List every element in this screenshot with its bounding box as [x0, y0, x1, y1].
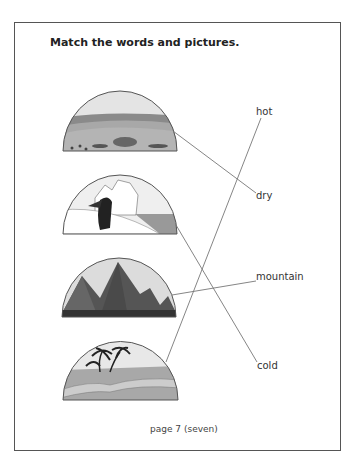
word-dry[interactable]: dry: [256, 190, 272, 201]
match-line-mountain-mountain[interactable]: [172, 281, 256, 295]
word-cold[interactable]: cold: [257, 360, 278, 371]
picture-savanna[interactable]: [60, 88, 180, 153]
illustrations: [0, 0, 347, 472]
picture-penguin[interactable]: [60, 172, 180, 237]
match-line-oasis-hot[interactable]: [166, 118, 261, 362]
picture-mountains[interactable]: [60, 255, 180, 320]
page-number: page 7 (seven): [150, 424, 218, 434]
word-mountain[interactable]: mountain: [256, 271, 304, 282]
word-hot[interactable]: hot: [256, 106, 272, 117]
picture-oasis[interactable]: [60, 340, 180, 402]
match-line-penguin-cold[interactable]: [176, 225, 257, 362]
